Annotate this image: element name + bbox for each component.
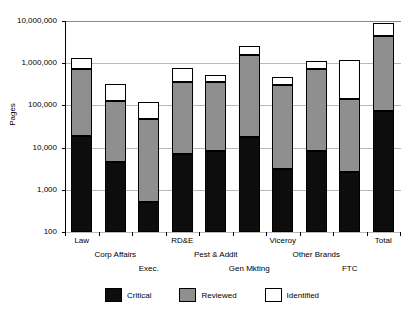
bar-segment-identified (205, 75, 226, 82)
legend-spacer (243, 295, 259, 296)
y-axis-label: 10,000 (0, 143, 57, 152)
bar-segment-identified (105, 84, 126, 101)
x-axis-tick (367, 232, 368, 236)
x-axis-label: Law (74, 236, 89, 245)
bar-segment-reviewed (105, 101, 126, 162)
y-axis-label: 1,000,000 (0, 58, 57, 67)
legend-label: Critical (127, 291, 151, 300)
y-axis-label: 10,000,000 (0, 16, 57, 25)
bar-segment-identified (239, 46, 260, 55)
bar-segment-reviewed (339, 99, 360, 173)
x-axis-label: Total (375, 236, 392, 245)
y-axis-label: 100 (0, 227, 57, 236)
bar-segment-critical (239, 137, 260, 232)
y-axis-tick (62, 63, 66, 64)
bar-segment-critical (71, 136, 92, 232)
y-axis-tick (62, 190, 66, 191)
y-axis-label: 100,000 (0, 100, 57, 109)
y-axis-label: 1,000 (0, 185, 57, 194)
y-gridline (66, 21, 401, 22)
bar-gen-mkting (239, 46, 260, 232)
x-axis-label: Other Brands (292, 250, 340, 259)
bar-ftc (339, 60, 360, 232)
y-gridline (66, 232, 401, 233)
bar-exec (138, 102, 159, 232)
bar-segment-critical (138, 202, 159, 232)
x-axis-tick (166, 232, 167, 236)
bar-segment-identified (138, 102, 159, 119)
x-axis-label: RD&E (171, 236, 193, 245)
bar-corp-affairs (105, 84, 126, 232)
bar-viceroy (272, 77, 293, 232)
x-axis-tick (132, 232, 133, 236)
bar-segment-reviewed (71, 69, 92, 136)
bar-segment-reviewed (373, 36, 394, 111)
bar-segment-critical (373, 111, 394, 232)
bar-law (71, 58, 92, 232)
x-axis-tick (333, 232, 334, 236)
x-axis-tick (99, 232, 100, 236)
legend-spacer (157, 295, 173, 296)
bar-segment-identified (306, 61, 327, 69)
y-axis-tick (62, 21, 66, 22)
bar-segment-identified (172, 68, 193, 82)
legend-item-identified: Identified (265, 288, 319, 302)
bar-rd-e (172, 68, 193, 232)
bar-total (373, 23, 394, 232)
x-axis-label: Corp Affairs (94, 250, 136, 259)
x-axis-tick (300, 232, 301, 236)
bar-segment-identified (339, 60, 360, 99)
bar-segment-critical (339, 172, 360, 232)
x-axis-tick (65, 232, 66, 236)
y-axis-tick (62, 148, 66, 149)
stacked-bar-chart: Pages 10,000,0001,000,000100,00010,0001,… (0, 0, 410, 316)
white-swatch-icon (265, 288, 282, 302)
bar-segment-identified (373, 23, 394, 36)
x-axis-label: Exec. (139, 264, 159, 273)
chart-legend: CriticalReviewedIdentified (105, 286, 345, 304)
bar-segment-reviewed (239, 55, 260, 137)
grey-swatch-icon (179, 288, 196, 302)
y-axis-title: Pages (8, 85, 17, 145)
x-axis-tick (199, 232, 200, 236)
x-axis-label: Gen Mkting (229, 264, 270, 273)
x-axis-label: Pest & Addit (194, 250, 238, 259)
bar-segment-reviewed (172, 82, 193, 154)
legend-item-reviewed: Reviewed (179, 288, 236, 302)
legend-item-critical: Critical (105, 288, 151, 302)
legend-label: Reviewed (201, 291, 236, 300)
y-axis-tick (62, 105, 66, 106)
bar-pest-addit (205, 75, 226, 232)
bar-segment-critical (272, 169, 293, 232)
bar-segment-reviewed (138, 119, 159, 202)
x-axis-tick (233, 232, 234, 236)
black-swatch-icon (105, 288, 122, 302)
bar-segment-reviewed (272, 85, 293, 169)
bar-segment-reviewed (306, 69, 327, 151)
x-axis-label: FTC (342, 264, 358, 273)
bar-segment-critical (105, 162, 126, 232)
bar-segment-identified (272, 77, 293, 85)
x-axis-label: Viceroy (269, 236, 296, 245)
bar-segment-critical (306, 151, 327, 232)
bar-other-brands (306, 61, 327, 232)
x-axis-tick (400, 232, 401, 236)
x-axis-tick (266, 232, 267, 236)
bar-segment-identified (71, 58, 92, 69)
bar-segment-critical (205, 151, 226, 232)
bar-segment-reviewed (205, 82, 226, 151)
bar-segment-critical (172, 154, 193, 232)
legend-label: Identified (287, 291, 319, 300)
